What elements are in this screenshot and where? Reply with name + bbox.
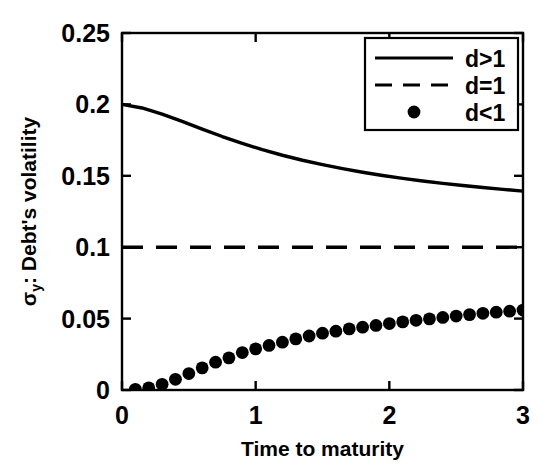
data-point-marker — [223, 351, 236, 364]
data-point-marker — [316, 327, 329, 340]
data-point-marker — [463, 308, 476, 321]
data-point-marker — [517, 304, 530, 317]
y-tick-label: 0.05 — [61, 305, 110, 333]
data-point-marker — [503, 305, 516, 318]
x-tick-label: 0 — [115, 401, 129, 429]
data-point-marker — [423, 312, 436, 325]
data-point-marker — [209, 356, 222, 369]
data-point-marker — [490, 306, 503, 319]
data-point-marker — [303, 330, 316, 343]
data-point-marker — [450, 310, 463, 323]
y-tick-label: 0.25 — [61, 19, 110, 47]
data-point-marker — [343, 322, 356, 335]
data-point-marker — [396, 315, 409, 328]
plot-area — [122, 104, 529, 395]
data-point-marker — [156, 378, 169, 391]
data-point-marker — [169, 373, 182, 386]
data-point-marker — [477, 307, 490, 320]
svg-text:σy: Debt's volatility: σy: Debt's volatility — [17, 117, 44, 307]
data-point-marker — [249, 342, 262, 355]
data-point-marker — [383, 317, 396, 330]
series-d-less-than-1 — [129, 304, 529, 396]
data-point-marker — [410, 314, 423, 327]
x-tick-label: 1 — [249, 401, 263, 429]
data-point-marker — [263, 339, 276, 352]
y-tick-label: 0.15 — [61, 162, 110, 190]
chart-figure: 00.050.10.150.20.250123Time to maturityσ… — [0, 0, 554, 468]
data-point-marker — [329, 325, 342, 338]
y-tick-label: 0.1 — [75, 233, 110, 261]
y-axis-title: σy: Debt's volatility — [17, 117, 44, 307]
x-tick-label: 2 — [382, 401, 396, 429]
data-point-marker — [182, 367, 195, 380]
data-point-marker — [236, 346, 249, 359]
x-axis-title: Time to maturity — [241, 437, 404, 460]
legend-item-label: d>1 — [465, 46, 505, 72]
legend-item-label: d=1 — [465, 73, 505, 99]
data-point-marker — [356, 321, 369, 334]
data-point-marker — [370, 319, 383, 332]
legend-marker-swatch — [408, 106, 421, 119]
data-point-marker — [436, 311, 449, 324]
data-point-marker — [129, 383, 142, 396]
y-tick-label: 0.2 — [75, 90, 110, 118]
volatility-line-chart: 00.050.10.150.20.250123Time to maturityσ… — [0, 0, 554, 468]
data-point-marker — [276, 336, 289, 349]
y-tick-label: 0 — [96, 376, 110, 404]
legend-item-label: d<1 — [465, 100, 505, 126]
x-tick-label: 3 — [516, 401, 530, 429]
data-point-marker — [196, 361, 209, 374]
data-point-marker — [142, 381, 155, 394]
data-point-marker — [289, 332, 302, 345]
chart-legend: d>1d=1d<1 — [365, 38, 518, 130]
